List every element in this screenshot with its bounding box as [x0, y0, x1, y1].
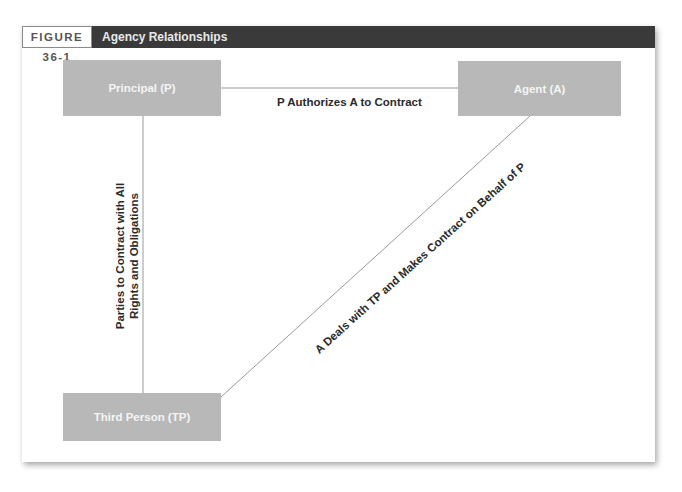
third-person-label: Third Person (TP): [94, 411, 190, 423]
third-person-box: Third Person (TP): [63, 393, 221, 441]
principal-label: Principal (P): [108, 82, 175, 94]
principal-tp-label: Parties to Contract with All Rights and …: [113, 183, 141, 330]
principal-tp-label-line1: Parties to Contract with All: [113, 183, 127, 330]
agent-tp-line: [221, 116, 530, 397]
principal-tp-label-line2: Rights and Obligations: [127, 183, 141, 330]
agent-box: Agent (A): [458, 61, 621, 116]
agent-label: Agent (A): [514, 83, 566, 95]
principal-agent-label: P Authorizes A to Contract: [277, 96, 422, 108]
principal-box: Principal (P): [63, 60, 221, 116]
